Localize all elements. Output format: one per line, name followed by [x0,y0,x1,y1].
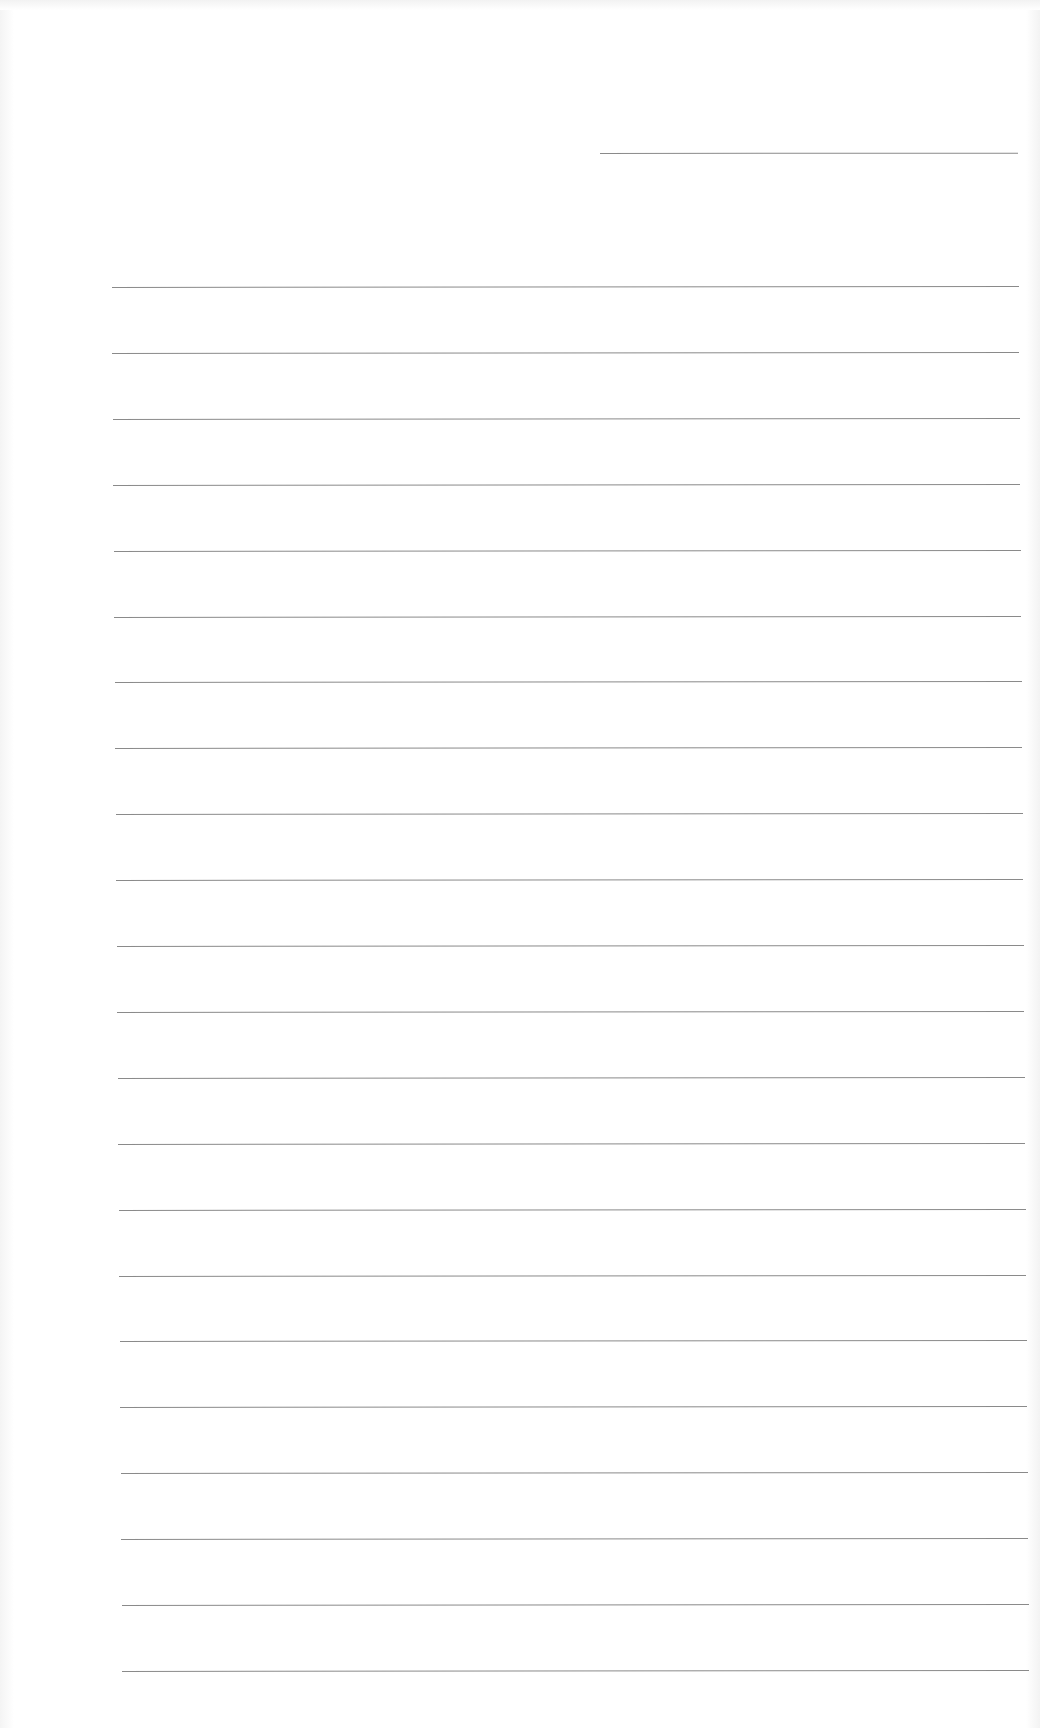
ruled-line [113,418,1020,420]
ruled-line [115,681,1022,683]
ruled-line [120,1406,1027,1408]
ruled-line [121,1472,1028,1474]
ruled-line [119,1209,1026,1211]
ruled-line [115,747,1022,749]
ruled-line [122,1670,1029,1672]
ruled-line [117,945,1024,947]
ruled-line [116,813,1023,815]
ruled-line [112,352,1019,354]
ruled-line [118,1077,1025,1079]
ruled-line [114,616,1021,618]
ruled-line [116,879,1023,881]
ruled-line [120,1340,1027,1342]
ruled-line [121,1538,1028,1540]
ruled-line [113,484,1020,486]
scan-edge [0,0,1040,10]
ruled-line [118,1143,1025,1145]
ruled-line [112,286,1019,288]
lined-paper-sheet [0,0,1040,1728]
ruled-line [114,550,1021,552]
ruled-line [119,1275,1026,1277]
ruled-line [117,1011,1024,1013]
ruled-line [122,1604,1029,1606]
header-line [600,153,1018,154]
